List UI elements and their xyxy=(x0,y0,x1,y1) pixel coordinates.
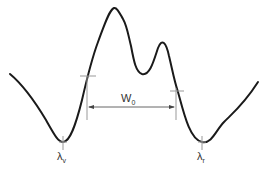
width-label-main: W xyxy=(121,92,131,104)
lambda-v-sub: v xyxy=(63,157,67,164)
width-arrow-left-head xyxy=(88,105,94,109)
width-label: W0 xyxy=(121,93,135,106)
lambda-r-sub: r xyxy=(203,157,205,164)
lambda-r-label: λr xyxy=(197,151,205,164)
profile-curve xyxy=(10,8,258,142)
lambda-v-label: λv xyxy=(57,151,66,164)
line-profile-diagram xyxy=(0,0,268,170)
width-arrow-right-head xyxy=(169,105,175,109)
width-label-sub: 0 xyxy=(131,99,135,106)
